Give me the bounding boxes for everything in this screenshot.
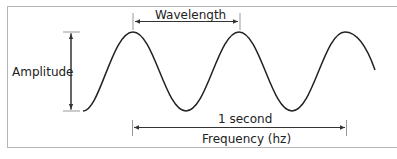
sine-wave — [83, 32, 375, 111]
duration-label: 1 second — [218, 113, 272, 125]
wavelength-label: Wavelength — [155, 9, 226, 21]
frequency-label: Frequency (hz) — [202, 133, 291, 145]
amplitude-label: Amplitude — [12, 66, 74, 78]
